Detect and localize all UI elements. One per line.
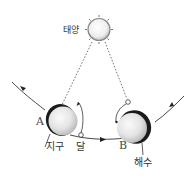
position-b-label: B bbox=[119, 140, 127, 151]
moon-label: 달 bbox=[76, 142, 85, 152]
earth-label: 지구 bbox=[46, 142, 64, 152]
sunlight-lines bbox=[60, 42, 127, 109]
diagram-canvas bbox=[0, 0, 194, 179]
tide-diagram: 태양 A 지구 달 B 해수 bbox=[0, 0, 194, 179]
moon-a bbox=[77, 102, 84, 137]
sun-label: 태양 bbox=[63, 26, 79, 35]
earth-a bbox=[41, 100, 80, 147]
position-a-label: A bbox=[36, 116, 44, 127]
tide-label: 해수 bbox=[134, 158, 152, 168]
orbit-path bbox=[12, 82, 184, 139]
orbit-arrows bbox=[20, 86, 174, 142]
sun-icon bbox=[85, 15, 113, 44]
